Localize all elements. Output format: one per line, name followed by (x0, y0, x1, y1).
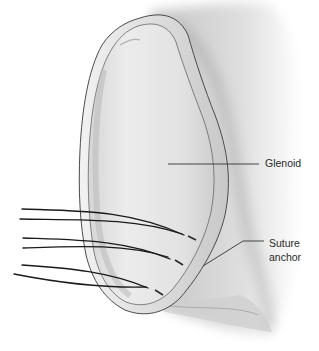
suture-anchor-label: Suture anchor (269, 236, 301, 264)
suture-anchor-label-line1: Suture (269, 236, 301, 250)
glenoid-illustration (0, 0, 319, 351)
glenoid-label: Glenoid (265, 156, 301, 170)
suture-anchor-label-line2: anchor (269, 250, 301, 264)
